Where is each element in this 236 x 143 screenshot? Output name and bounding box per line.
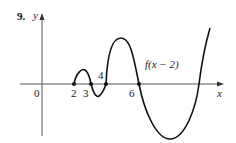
x-axis-arrow-icon bbox=[217, 82, 224, 87]
point-4 bbox=[104, 82, 108, 86]
y-axis-arrow-icon bbox=[40, 13, 45, 20]
graph bbox=[0, 0, 236, 143]
point-6 bbox=[137, 82, 141, 86]
point-2 bbox=[72, 82, 76, 86]
point-3 bbox=[89, 82, 93, 86]
